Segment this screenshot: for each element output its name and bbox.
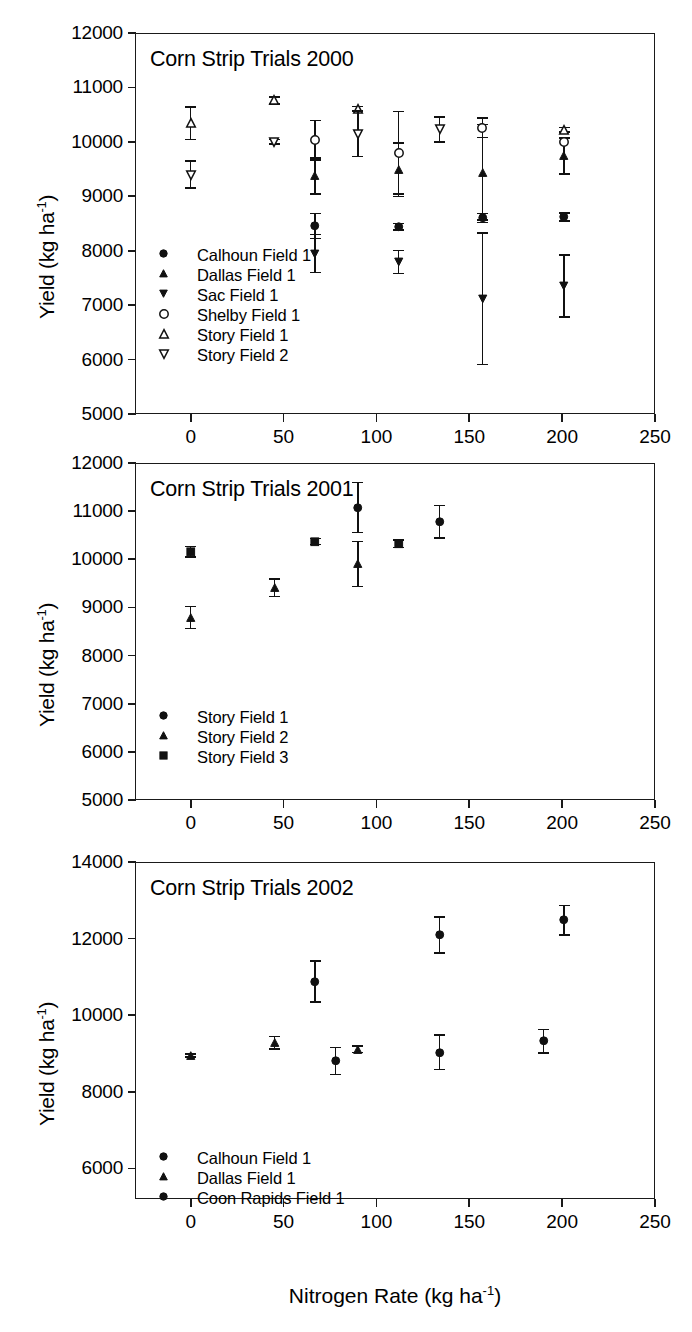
error-bar-cap-upper [310, 157, 321, 159]
y-tick-mark [128, 141, 136, 143]
error-bar-cap-lower [185, 556, 196, 558]
error-bar [398, 143, 400, 196]
legend-label: Dallas Field 1 [197, 1169, 296, 1188]
error-bar-cap-upper [477, 124, 488, 126]
legend-label: Story Field 2 [197, 346, 288, 365]
error-bar-cap-upper [393, 111, 404, 113]
data-point-filled-triangle-down [394, 257, 404, 267]
error-bar-cap-upper [393, 539, 404, 541]
x-tick-mark [190, 800, 192, 808]
error-bar-cap-lower [477, 137, 488, 139]
panel-2002: 60008000100001200014000050100150200250Co… [0, 0, 692, 1332]
data-point-filled-circle [331, 1056, 341, 1066]
data-point-filled-square [394, 539, 404, 549]
error-bar-cap-upper [310, 538, 321, 540]
y-tick-mark [128, 861, 136, 863]
panel-2000: 5000600070008000900010000110001200005010… [0, 0, 692, 1332]
x-tick-mark [561, 800, 563, 808]
y-tick-mark [128, 359, 136, 361]
error-bar-cap-upper [269, 139, 280, 141]
error-bar-cap-upper [185, 160, 196, 162]
error-bar-cap-lower [310, 238, 321, 240]
error-bar-cap-lower [310, 1001, 321, 1003]
data-point-open-circle [477, 123, 487, 133]
error-bar-cap-upper [352, 110, 363, 112]
x-tick-label: 200 [527, 813, 597, 832]
figure-corn-strip-trials: 5000600070008000900010000110001200005010… [0, 0, 692, 1332]
y-tick-label: 12000 [55, 453, 123, 472]
error-bar-cap-upper [434, 505, 445, 507]
error-bar-cap-upper [185, 546, 196, 548]
error-bar [274, 1037, 276, 1049]
data-point-filled-triangle-up [478, 168, 488, 178]
legend-marker-filled-triangle-down-icon [157, 284, 175, 304]
data-point-open-triangle-up [559, 125, 569, 135]
error-bar [563, 255, 565, 317]
error-bar [314, 121, 316, 160]
error-bar [314, 234, 316, 272]
error-bar-cap-upper [185, 1053, 196, 1055]
legend-label: Story Field 3 [197, 748, 288, 767]
y-tick-label: 5000 [55, 404, 123, 423]
data-point-filled-triangle-up [353, 1045, 363, 1055]
data-point-filled-triangle-down [559, 281, 569, 291]
y-tick-label: 6000 [55, 1158, 123, 1177]
data-point-filled-triangle-up [310, 171, 320, 181]
x-tick-label: 50 [249, 1212, 319, 1231]
error-bar [314, 158, 316, 194]
error-bar-cap-upper [185, 106, 196, 108]
error-bar-cap-lower [269, 143, 280, 145]
y-tick-mark [128, 195, 136, 197]
data-point-open-triangle-down [269, 137, 279, 147]
error-bar-cap-upper [538, 1029, 549, 1031]
x-tick-label: 100 [341, 1212, 411, 1231]
y-tick-label: 14000 [55, 852, 123, 871]
error-bar-cap-upper [559, 127, 570, 129]
data-point-filled-circle [435, 517, 445, 527]
y-tick-mark [128, 1014, 136, 1016]
error-bar-cap-lower [352, 586, 363, 588]
error-bar-cap-upper [269, 96, 280, 98]
y-tick-mark [128, 304, 136, 306]
error-bar [439, 505, 441, 538]
y-tick-label: 8000 [55, 646, 123, 665]
y-axis-title-text: Yield (kg ha-1) [35, 1001, 58, 1125]
y-tick-mark [128, 938, 136, 940]
error-bar-cap-lower [310, 193, 321, 195]
error-bar [563, 128, 565, 132]
error-bar-cap-upper [559, 212, 570, 214]
error-bar-cap-lower [330, 1074, 341, 1076]
error-bar-cap-lower [352, 156, 363, 158]
data-point-filled-triangle-up [186, 613, 196, 623]
x-tick-mark [376, 1199, 378, 1207]
data-point-filled-circle [435, 1048, 445, 1058]
y-tick-mark [128, 1091, 136, 1093]
legend-label: Sac Field 1 [197, 286, 278, 305]
error-bar [482, 118, 484, 138]
y-axis-title: Yield (kg ha-1) [34, 194, 59, 318]
error-bar [314, 214, 316, 239]
legend-marker-open-circle-icon [157, 304, 175, 324]
y-tick-mark [128, 607, 136, 609]
x-tick-label: 50 [249, 427, 319, 446]
legend-marker-filled-square-icon [157, 746, 175, 766]
y-tick-label: 8000 [55, 1082, 123, 1101]
panel-title: Corn Strip Trials 2002 [150, 876, 354, 901]
error-bar [398, 540, 400, 548]
error-bar-cap-lower [352, 110, 363, 112]
error-bar-cap-lower [477, 219, 488, 221]
y-tick-label: 8000 [55, 241, 123, 260]
x-tick-mark [190, 414, 192, 422]
legend-label: Story Field 1 [197, 326, 288, 345]
x-tick-label: 0 [156, 427, 226, 446]
error-bar-cap-upper [352, 541, 363, 543]
legend-label: Calhoun Field 1 [197, 246, 311, 265]
data-point-filled-circle [478, 213, 488, 223]
error-bar-cap-upper [352, 106, 363, 108]
error-bar-cap-lower [559, 934, 570, 936]
error-bar-cap-lower [393, 196, 404, 198]
error-bar [314, 961, 316, 1002]
error-bar-cap-lower [434, 141, 445, 143]
y-tick-label: 6000 [55, 742, 123, 761]
y-tick-mark [128, 32, 136, 34]
